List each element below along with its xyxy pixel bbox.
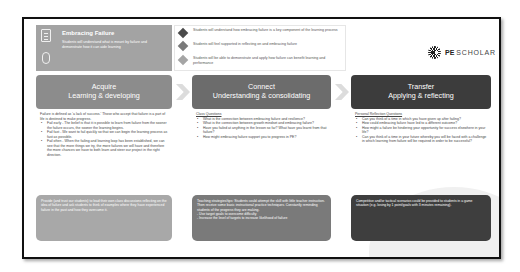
objective-3: Students will be able to demonstrate and… xyxy=(193,56,343,65)
column-footer: Competitive and/or tactical scenarios co… xyxy=(351,195,491,241)
mandala-logo-icon xyxy=(428,46,441,59)
column-connect: Connect Understanding & consolidating Cl… xyxy=(192,75,331,241)
objective-2: Students will feel supported in reflecti… xyxy=(193,42,343,47)
column-body: Class Questions What is the connection b… xyxy=(192,109,331,195)
pe-scholar-logo: PE SCHOLAR xyxy=(428,46,496,59)
learning-objectives: Students will understand how embracing f… xyxy=(174,25,346,71)
intro-title: Embracing Failure xyxy=(62,30,114,36)
clipboard-icon xyxy=(41,29,51,42)
intro-description: Students will understand what is meant b… xyxy=(62,40,166,49)
bullet-item: Fail early - The belief is that it is po… xyxy=(40,121,169,130)
diamond-bullet-icon xyxy=(178,55,189,66)
column-header: Transfer Applying & reflecting xyxy=(351,75,491,109)
column-body: Failure is defined as 'a lack of success… xyxy=(36,109,172,195)
column-header: Acquire Learning & developing xyxy=(36,75,172,109)
bullet-item: Have you failed at anything in the lesso… xyxy=(196,126,328,135)
column-header: Connect Understanding & consolidating xyxy=(192,75,331,109)
column-subtitle: Applying & reflecting xyxy=(351,92,491,101)
bullet-item: How might a failure be hindering your op… xyxy=(355,126,488,135)
column-footer: Provide (and trust our students) to lead… xyxy=(36,195,172,241)
column-transfer: Transfer Applying & reflecting Personal … xyxy=(351,75,491,241)
brand-name: SCHOLAR xyxy=(456,49,495,56)
bullet-item: Fail often - When the failing and learni… xyxy=(40,139,169,157)
column-body: Personal Reflection Questions Can you th… xyxy=(351,109,491,195)
bullet-item: Can you think of a time in your future w… xyxy=(355,135,488,144)
bullet-item: How might embracing failure support you … xyxy=(196,135,328,140)
column-intro: Failure is defined as 'a lack of success… xyxy=(40,112,169,121)
diamond-bullet-icon xyxy=(178,41,189,52)
column-subtitle: Learning & developing xyxy=(36,92,172,101)
chevron-right-icon xyxy=(335,84,349,100)
mouse-icon xyxy=(42,52,50,64)
column-subtitle: Understanding & consolidating xyxy=(192,92,331,101)
column-acquire: Acquire Learning & developing Failure is… xyxy=(36,75,172,241)
brand-prefix: PE xyxy=(445,49,454,56)
column-footer: Teaching strategies/tips: Students could… xyxy=(192,195,331,241)
bullet-item: Fail fast - We want to fail quickly so t… xyxy=(40,130,169,139)
chevron-right-icon xyxy=(176,84,190,100)
objective-1: Students will understand how embracing f… xyxy=(193,28,343,33)
diamond-bullet-icon xyxy=(178,28,189,39)
intro-card: Embracing Failure Students will understa… xyxy=(36,25,172,71)
lesson-card-frame: Embracing Failure Students will understa… xyxy=(22,17,501,259)
